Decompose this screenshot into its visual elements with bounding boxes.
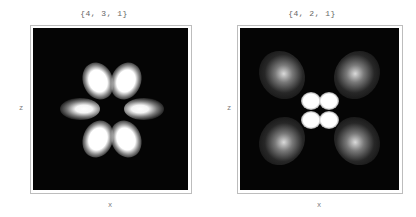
x-axis-label: x — [108, 201, 112, 209]
plot-panel-421: {4, 2, 1} z x — [208, 0, 416, 217]
x-axis-label: x — [317, 201, 321, 209]
orbital-lobe — [301, 111, 321, 129]
y-axis-label: z — [227, 104, 231, 112]
plot-title: {4, 3, 1} — [0, 9, 208, 18]
y-axis-label: z — [19, 104, 23, 112]
orbital-lobe — [319, 92, 339, 110]
plot-panel-431: {4, 3, 1} z x — [0, 0, 208, 217]
orbital-lobe — [124, 98, 164, 120]
orbital-lobe — [60, 98, 100, 120]
density-plot — [240, 28, 399, 190]
orbital-lobe — [105, 116, 147, 162]
orbital-lobe — [301, 92, 321, 110]
density-plot — [33, 28, 188, 190]
orbital-lobe — [319, 111, 339, 129]
plot-title: {4, 2, 1} — [208, 9, 416, 18]
